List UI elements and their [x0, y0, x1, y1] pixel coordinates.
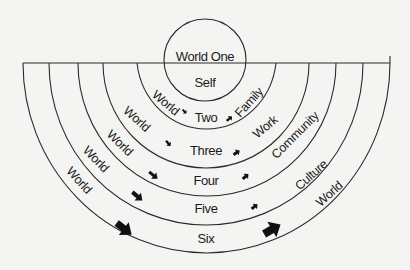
ring-two-right-arrow-icon — [225, 114, 234, 123]
ring-four-right-arrow-icon — [240, 171, 250, 181]
ring-five-label: Five — [195, 201, 218, 216]
core-subtitle: Self — [195, 75, 217, 90]
ring-four-left-label: World — [104, 127, 136, 159]
ring-five-left-arrow-icon — [129, 188, 145, 204]
ring-two-left-label: World — [149, 88, 182, 119]
ring-three-label: Three — [190, 143, 222, 158]
ring-six-right-label: World — [313, 178, 346, 209]
ring-six-left-label: World — [63, 164, 94, 197]
ring-four-right-label: Community — [269, 108, 322, 161]
ring-three-left-arrow-icon — [164, 139, 173, 148]
ring-three-right-arrow-icon — [232, 148, 242, 158]
ring-six-right-arrow-icon — [260, 217, 285, 242]
worlds-diagram: World One Self Two Three Four Five Six W… — [0, 0, 410, 270]
core-title: World One — [176, 49, 234, 64]
diagram-canvas: World One Self Two Three Four Five Six W… — [0, 0, 410, 270]
ring-two-right-label: Family — [232, 84, 267, 120]
ring-four-left-arrow-icon — [147, 169, 161, 182]
ring-four-label: Four — [193, 173, 219, 188]
ring-three-left-label: World — [121, 103, 154, 134]
ring-two-label: Two — [195, 110, 218, 125]
ring-three-right-label: Work — [250, 112, 281, 141]
ring-six-label: Six — [198, 231, 216, 246]
ring-two-left-arrow-icon — [181, 108, 188, 115]
ring-five-right-arrow-icon — [249, 201, 259, 211]
